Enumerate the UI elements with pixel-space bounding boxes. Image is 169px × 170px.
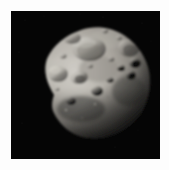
space-plate xyxy=(11,11,160,159)
bottom-shadow xyxy=(11,11,160,159)
image-viewport: Phobos xyxy=(0,0,169,170)
moon-render xyxy=(11,11,160,159)
moon-body xyxy=(11,11,160,159)
crater-west-limb xyxy=(29,79,43,91)
